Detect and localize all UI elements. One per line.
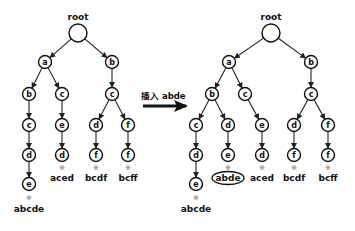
trie-node-ace: e	[56, 119, 69, 132]
trie-node-abd: d	[222, 119, 235, 132]
trie-node-aced: d	[256, 149, 269, 162]
trie-before: rootabbcccedfddffe※aced※bcdf※bcff※abcde	[14, 12, 138, 214]
word-label: aced	[50, 173, 74, 183]
trie-node-bcf: f	[322, 119, 335, 132]
root-circle-icon	[69, 24, 87, 42]
trie-node-ac: c	[56, 88, 69, 101]
node-char: c	[194, 121, 199, 130]
edge-arrow-icon	[85, 39, 107, 58]
edge-arrow-icon	[297, 100, 308, 119]
end-marker-icon: ※	[26, 194, 32, 202]
root-label: root	[260, 12, 282, 22]
node-char: e	[225, 151, 231, 160]
word-aced: ※aced	[250, 164, 274, 183]
trie-node-ab: b	[206, 88, 219, 101]
word-abde: ※abde	[212, 164, 244, 185]
trie-node-b: b	[106, 56, 119, 69]
trie-node-abde: e	[222, 149, 235, 162]
edge-arrow-icon	[48, 68, 59, 88]
word-bcdf: ※bcdf	[283, 164, 305, 183]
edge-arrow-icon	[32, 68, 42, 88]
word-label: abcde	[14, 204, 44, 214]
trie-node-a: a	[39, 56, 52, 69]
node-char: f	[292, 151, 296, 160]
trie-node-a: a	[223, 56, 236, 69]
trie-node-bcdf: f	[288, 149, 301, 162]
insert-label: 插入 abde	[141, 91, 186, 101]
edge-arrow-icon	[314, 100, 325, 119]
node-char: d	[259, 151, 265, 160]
trie-node-bcff: f	[322, 149, 335, 162]
trie-node-bc: c	[305, 88, 318, 101]
trie-node-bc: c	[106, 88, 119, 101]
trie-node-abcd: d	[23, 149, 36, 162]
word-abcde: ※abcde	[181, 194, 211, 214]
end-marker-icon: ※	[125, 164, 131, 172]
edge-arrow-icon	[232, 68, 242, 88]
end-marker-icon: ※	[225, 164, 231, 172]
edge-arrow-icon	[115, 100, 125, 119]
node-char: f	[126, 121, 130, 130]
edge-arrow-icon	[199, 100, 209, 119]
edge-arrow-icon	[235, 38, 264, 58]
edge-arrow-icon	[215, 100, 225, 119]
node-char: d	[93, 121, 99, 130]
trie-node-abcd: d	[190, 149, 203, 162]
root-node	[262, 24, 280, 42]
end-marker-icon: ※	[259, 164, 265, 172]
node-char: e	[193, 180, 199, 189]
trie-after: rootabbcccdedfdedffe※abde※aced※bcdf※bcff…	[181, 12, 338, 214]
node-char: f	[326, 121, 330, 130]
node-char: b	[109, 58, 115, 67]
node-char: d	[26, 151, 32, 160]
end-marker-icon: ※	[93, 164, 99, 172]
node-char: e	[26, 180, 32, 189]
word-label: aced	[250, 173, 274, 183]
word-abcde: ※abcde	[14, 194, 44, 214]
trie-node-ac: c	[239, 88, 252, 101]
node-char: c	[243, 90, 248, 99]
node-char: d	[59, 151, 65, 160]
node-char: c	[309, 90, 314, 99]
trie-node-bcd: d	[90, 119, 103, 132]
edge-arrow-icon	[215, 68, 226, 88]
node-char: c	[110, 90, 115, 99]
word-label: bcdf	[85, 173, 107, 183]
node-char: b	[209, 90, 215, 99]
node-char: d	[225, 121, 231, 130]
end-marker-icon: ※	[291, 164, 297, 172]
end-marker-icon: ※	[59, 164, 65, 172]
node-char: e	[59, 121, 65, 130]
root-node	[69, 24, 87, 42]
node-char: f	[326, 151, 330, 160]
trie-node-abc: c	[190, 119, 203, 132]
node-char: c	[27, 121, 32, 130]
root-label: root	[67, 12, 89, 22]
node-char: f	[94, 151, 98, 160]
node-char: d	[193, 151, 199, 160]
node-char: e	[259, 121, 265, 130]
end-marker-icon: ※	[193, 194, 199, 202]
node-char: f	[126, 151, 130, 160]
word-label: bcff	[318, 173, 338, 183]
trie-node-aced: d	[56, 149, 69, 162]
end-marker-icon: ※	[325, 164, 331, 172]
word-bcff: ※bcff	[118, 164, 138, 183]
trie-node-b: b	[305, 56, 318, 69]
node-char: a	[226, 58, 231, 67]
trie-node-abcde: e	[23, 178, 36, 191]
node-char: d	[291, 121, 297, 130]
word-bcff: ※bcff	[318, 164, 338, 183]
trie-diagram: rootabbcccedfddffe※aced※bcdf※bcff※abcde …	[0, 0, 355, 231]
edge-arrow-icon	[278, 38, 305, 58]
word-bcdf: ※bcdf	[85, 164, 107, 183]
trie-node-ab: b	[23, 88, 36, 101]
edge-arrow-icon	[99, 100, 109, 119]
trie-node-ace: e	[256, 119, 269, 132]
word-aced: ※aced	[50, 164, 74, 183]
root-circle-icon	[262, 24, 280, 42]
word-label: abde	[215, 173, 240, 183]
trie-node-bcf: f	[122, 119, 135, 132]
word-label: abcde	[181, 204, 211, 214]
word-label: bcdf	[283, 173, 305, 183]
